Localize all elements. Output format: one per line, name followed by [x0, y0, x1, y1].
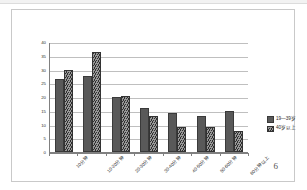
bar-chart[interactable]: 0510152025303540 10分钟10-20分钟20-30分钟30-40…	[24, 20, 292, 180]
bar-groups	[50, 43, 248, 152]
y-axis-tick-label: 20	[26, 96, 46, 100]
x-axis-category-label: 20-30分钟	[134, 154, 154, 174]
x-axis-category-label: 60分钟以上	[248, 154, 270, 176]
bar-group	[220, 43, 248, 152]
x-axis-tick	[248, 153, 249, 156]
bar[interactable]	[64, 70, 73, 152]
chart-legend: 19—39岁40岁以上	[267, 116, 307, 135]
y-axis-tick-label: 15	[26, 110, 46, 114]
bar-group	[135, 43, 163, 152]
bar-group	[50, 43, 78, 152]
bar[interactable]	[197, 116, 206, 152]
x-axis-category-label: 10-20分钟	[105, 154, 125, 174]
plot-area	[49, 43, 248, 153]
x-axis-category-labels: 10分钟10-20分钟20-30分钟30-40分钟40-50分钟50-60分钟6…	[49, 154, 248, 182]
bar-group	[163, 43, 191, 152]
y-axis-tick-label: 0	[26, 151, 46, 155]
legend-swatch-icon	[267, 116, 274, 123]
y-axis-tick-label: 5	[26, 137, 46, 141]
bar[interactable]	[177, 127, 186, 152]
bar[interactable]	[140, 108, 149, 152]
document-page: 0510152025303540 10分钟10-20分钟20-30分钟30-40…	[0, 0, 307, 190]
legend-label: 40岁以上	[276, 126, 296, 131]
x-axis-category-label: 30-40分钟	[162, 154, 182, 174]
bar-group	[107, 43, 135, 152]
bar[interactable]	[83, 76, 92, 152]
bar[interactable]	[112, 97, 121, 152]
bar-group	[191, 43, 219, 152]
bar[interactable]	[92, 52, 101, 152]
bar[interactable]	[149, 116, 158, 152]
bar[interactable]	[234, 131, 243, 152]
legend-swatch-icon	[267, 126, 274, 133]
page-top-rule	[0, 0, 307, 4]
y-axis-tick-label: 35	[26, 55, 46, 59]
bar[interactable]	[206, 127, 215, 152]
y-axis-tick-label: 10	[26, 123, 46, 127]
y-axis-tick-label: 40	[26, 41, 46, 45]
legend-label: 19—39岁	[276, 117, 296, 122]
bar[interactable]	[121, 96, 130, 153]
y-axis-tick-labels: 0510152025303540	[24, 43, 46, 153]
legend-item[interactable]: 19—39岁	[267, 116, 307, 123]
page-frame: 0510152025303540 10分钟10-20分钟20-30分钟30-40…	[11, 9, 295, 182]
page-number: 6	[274, 161, 279, 171]
x-axis-category-label: 10分钟	[75, 154, 90, 169]
y-axis-tick-label: 30	[26, 68, 46, 72]
bar[interactable]	[168, 113, 177, 152]
legend-item[interactable]: 40岁以上	[267, 126, 307, 133]
bar-group	[78, 43, 106, 152]
x-axis-category-label: 50-60分钟	[219, 154, 239, 174]
bar[interactable]	[225, 111, 234, 153]
y-axis-tick-label: 25	[26, 82, 46, 86]
bar[interactable]	[55, 79, 64, 152]
x-axis-category-label: 40-50分钟	[190, 154, 210, 174]
